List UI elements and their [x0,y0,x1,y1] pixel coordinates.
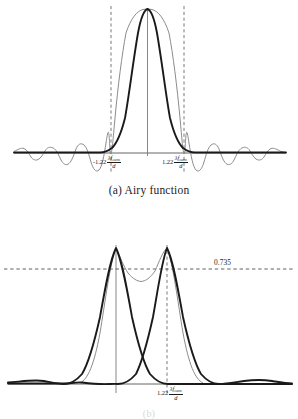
second-point-source-curve [8,248,292,384]
axis-label-b-fraction: λfcamd [169,386,183,401]
axis-label-right-coefficient: 1.22 [162,159,173,166]
axis-label-right-fraction: λfcamd [174,155,188,170]
d-denominator-b: d [169,395,183,402]
axis-label-rayleigh-separation: 1.22λfcamd [157,386,183,401]
cam-subscript-left: cam [112,156,120,161]
cam-subscript-right: cam [179,156,187,161]
panel-a-plot [0,0,298,178]
gaussian-approximation-curve [14,9,286,153]
cam-subscript-b: cam [174,388,182,393]
panel-b-caption: (b) [0,408,298,419]
axis-label-left-rayleigh: -1.22λfcamd [93,155,121,170]
axis-label-b-coefficient: 1.22 [157,390,168,397]
panel-a-caption: (a) Airy function [0,184,298,196]
d-denominator-right: d [174,163,188,170]
figure-container: -1.22λfcamd 1.22λfcamd (a) Airy function [0,0,298,419]
airy-function-curve [14,9,286,171]
axis-label-left-fraction: λfcamd [107,155,121,170]
panel-b-plot [0,205,298,419]
d-denominator-left: d [107,163,121,170]
dip-level-label: 0.735 [214,258,231,267]
panel-airy-function: -1.22λfcamd 1.22λfcamd [0,0,298,178]
axis-label-left-coefficient: -1.22 [93,159,106,166]
first-point-source-curve [8,248,292,384]
axis-label-right-rayleigh: 1.22λfcamd [162,155,188,170]
panel-two-point-resolution: 0.735 1.22λfcamd [0,205,298,419]
